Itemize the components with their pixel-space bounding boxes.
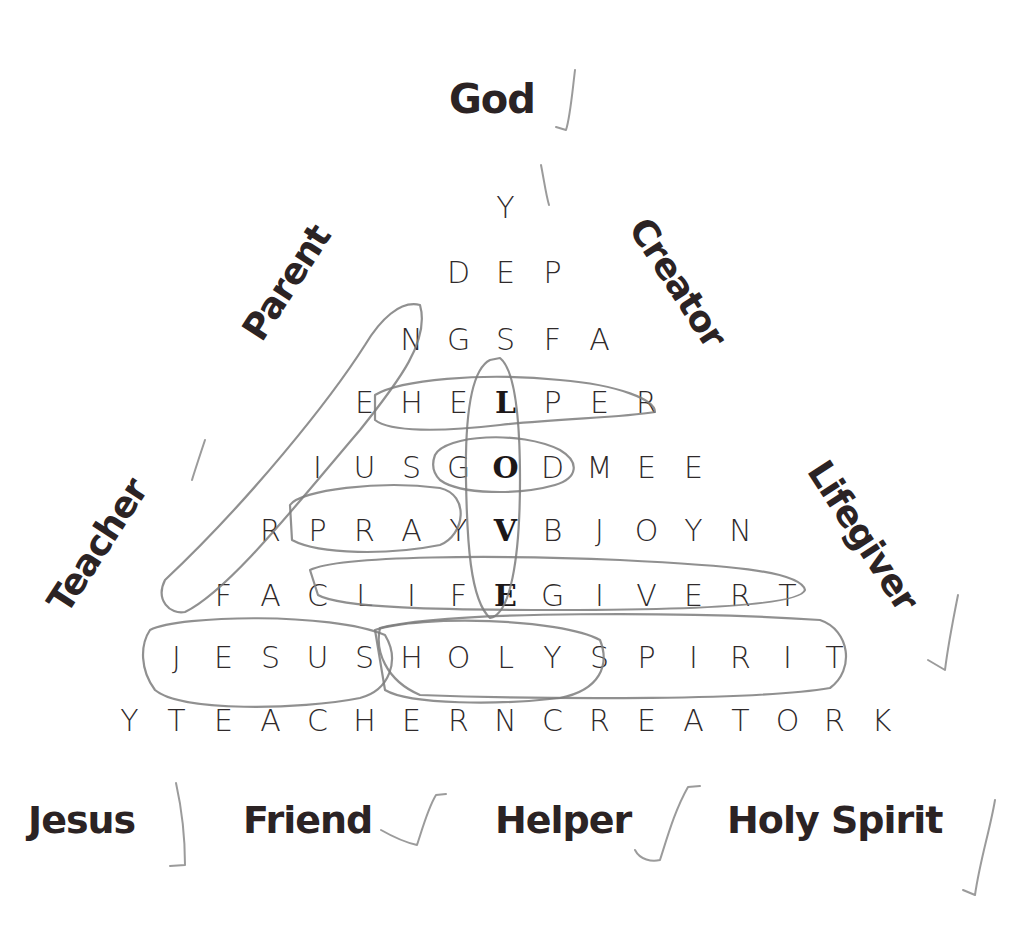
grid-letter[interactable]: S (341, 640, 388, 675)
grid-letter[interactable]: R (717, 578, 764, 613)
grid-letter[interactable]: A (576, 322, 623, 357)
grid-letter[interactable]: A (670, 703, 717, 738)
grid-letter[interactable]: U (294, 640, 341, 675)
grid-letter[interactable]: L (482, 385, 529, 420)
grid-row: FACLIFEGIVERT (0, 578, 1011, 613)
grid-letter[interactable]: R (341, 513, 388, 548)
grid-letter[interactable]: I (576, 578, 623, 613)
grid-letter[interactable]: S (388, 450, 435, 485)
grid-letter[interactable]: H (341, 703, 388, 738)
grid-letter[interactable]: D (435, 255, 482, 290)
grid-letter[interactable]: F (200, 578, 247, 613)
grid-letter[interactable]: A (247, 703, 294, 738)
grid-letter[interactable]: R (435, 703, 482, 738)
grid-letter[interactable]: I (764, 640, 811, 675)
grid-letter[interactable]: T (717, 703, 764, 738)
grid-letter[interactable]: I (388, 578, 435, 613)
grid-letter[interactable]: S (576, 640, 623, 675)
grid-letter[interactable]: E (435, 385, 482, 420)
word-helper: Helper (495, 798, 631, 842)
grid-row: JESUSHOLYSPIRIT (0, 640, 1011, 675)
grid-letter[interactable]: O (623, 513, 670, 548)
grid-letter[interactable]: N (482, 703, 529, 738)
grid-letter[interactable]: C (529, 703, 576, 738)
grid-letter[interactable]: Y (435, 513, 482, 548)
grid-letter[interactable]: E (482, 578, 529, 613)
grid-letter[interactable]: K (858, 703, 905, 738)
grid-letter[interactable]: E (388, 703, 435, 738)
grid-letter[interactable]: A (388, 513, 435, 548)
word-holy-spirit: Holy Spirit (727, 798, 942, 842)
check-mark-helper (635, 786, 700, 861)
check-mark-god (556, 70, 575, 130)
grid-row: DEP (0, 255, 1011, 290)
grid-letter[interactable]: D (529, 450, 576, 485)
grid-letter[interactable]: E (482, 255, 529, 290)
grid-letter[interactable]: T (811, 640, 858, 675)
grid-letter[interactable]: L (341, 578, 388, 613)
grid-letter[interactable]: I (670, 640, 717, 675)
grid-row: NGSFA (0, 322, 1011, 357)
grid-letter[interactable]: B (529, 513, 576, 548)
grid-letter[interactable]: N (388, 322, 435, 357)
grid-letter[interactable]: A (247, 578, 294, 613)
grid-letter[interactable]: L (482, 640, 529, 675)
grid-letter[interactable]: E (623, 703, 670, 738)
grid-letter[interactable]: E (341, 385, 388, 420)
grid-letter[interactable]: H (388, 385, 435, 420)
grid-letter[interactable]: F (529, 322, 576, 357)
grid-letter[interactable]: R (811, 703, 858, 738)
grid-letter[interactable]: T (153, 703, 200, 738)
grid-letter[interactable]: I (294, 450, 341, 485)
word-friend: Friend (243, 798, 372, 842)
grid-letter[interactable]: V (623, 578, 670, 613)
grid-row: Y (0, 190, 1011, 225)
grid-letter[interactable]: C (294, 703, 341, 738)
grid-letter[interactable]: R (576, 703, 623, 738)
grid-row: EHELPER (0, 385, 1011, 420)
grid-letter[interactable]: F (435, 578, 482, 613)
grid-letter[interactable]: S (247, 640, 294, 675)
grid-row: IUSGODMEE (0, 450, 1011, 485)
check-mark-friend (381, 794, 446, 845)
grid-row: RPRAYVBJOYN (0, 513, 1011, 548)
grid-letter[interactable]: M (576, 450, 623, 485)
grid-letter[interactable]: C (294, 578, 341, 613)
grid-letter[interactable]: G (529, 578, 576, 613)
check-mark-holy-spirit (963, 800, 995, 895)
grid-letter[interactable]: O (482, 450, 529, 485)
word-god: God (449, 76, 535, 122)
grid-letter[interactable]: E (670, 450, 717, 485)
check-mark-jesus (170, 783, 185, 866)
grid-letter[interactable]: E (576, 385, 623, 420)
grid-letter[interactable]: J (576, 513, 623, 548)
grid-letter[interactable]: G (435, 450, 482, 485)
grid-letter[interactable]: E (670, 578, 717, 613)
grid-row: YTEACHERNCREATORK (0, 703, 1011, 738)
grid-letter[interactable]: S (482, 322, 529, 357)
grid-letter[interactable]: N (717, 513, 764, 548)
grid-letter[interactable]: V (482, 513, 529, 548)
grid-letter[interactable]: R (247, 513, 294, 548)
word-jesus: Jesus (28, 798, 135, 842)
grid-letter[interactable]: Y (670, 513, 717, 548)
grid-letter[interactable]: P (529, 385, 576, 420)
grid-letter[interactable]: J (153, 640, 200, 675)
grid-letter[interactable]: U (341, 450, 388, 485)
grid-letter[interactable]: O (764, 703, 811, 738)
grid-letter[interactable]: T (764, 578, 811, 613)
grid-letter[interactable]: P (529, 255, 576, 290)
grid-letter[interactable]: H (388, 640, 435, 675)
grid-letter[interactable]: Y (106, 703, 153, 738)
grid-letter[interactable]: G (435, 322, 482, 357)
grid-letter[interactable]: E (623, 450, 670, 485)
grid-letter[interactable]: Y (482, 190, 529, 225)
grid-letter[interactable]: R (623, 385, 670, 420)
grid-letter[interactable]: O (435, 640, 482, 675)
grid-letter[interactable]: R (717, 640, 764, 675)
grid-letter[interactable]: P (623, 640, 670, 675)
grid-letter[interactable]: P (294, 513, 341, 548)
grid-letter[interactable]: E (200, 703, 247, 738)
grid-letter[interactable]: Y (529, 640, 576, 675)
grid-letter[interactable]: E (200, 640, 247, 675)
